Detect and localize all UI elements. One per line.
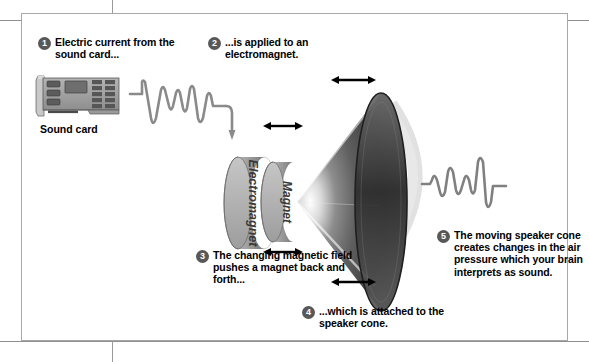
electromagnet-label: Electromagnet [246, 160, 260, 248]
magnet-label: Magnet [280, 181, 294, 224]
figure-canvas: Sound card [0, 0, 589, 362]
callout-2: 2 ...is applied to an electromagnet. [208, 36, 348, 60]
callout-1: 1 Electric current from the sound card..… [38, 36, 188, 60]
callout-text-2: ...is applied to an electromagnet. [225, 36, 348, 60]
callout-3: 3 The changing magnetic field pushes a m… [196, 249, 356, 286]
page-rule-bottom [0, 341, 589, 342]
callout-4: 4 ...which is attached to the speaker co… [302, 305, 472, 329]
callout-badge-3: 3 [196, 250, 209, 263]
callout-text-5: The moving speaker cone creates changes … [454, 229, 583, 278]
output-waveform-icon [420, 150, 540, 220]
sound-card-icon [30, 74, 123, 118]
callout-badge-1: 1 [38, 37, 51, 50]
callout-badge-5: 5 [437, 230, 450, 243]
callout-badge-2: 2 [208, 37, 221, 50]
callout-badge-4: 4 [302, 306, 315, 319]
callout-5: 5 The moving speaker cone creates change… [437, 229, 583, 278]
callout-text-1: Electric current from the sound card... [55, 36, 188, 60]
callout-text-4: ...which is attached to the speaker cone… [319, 305, 472, 329]
sound-card-label: Sound card [40, 123, 98, 135]
callout-text-3: The changing magnetic field pushes a mag… [213, 249, 356, 286]
